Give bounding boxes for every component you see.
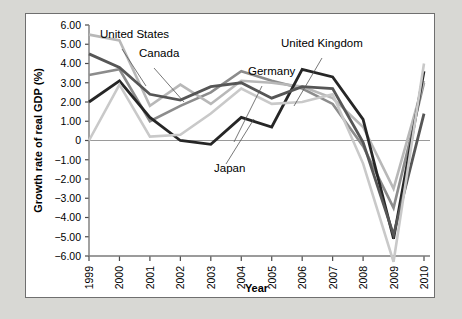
x-tick-label: 2000 [113, 266, 125, 290]
x-tick-label: 2003 [205, 266, 217, 290]
y-tick-label: 1.00 [61, 115, 82, 127]
gdp-growth-line-chart: 6.005.004.003.002.001.000−1.00−2.00−3.00… [26, 14, 436, 299]
x-tick-label: 2008 [357, 266, 369, 290]
y-tick-label: 5.00 [61, 38, 82, 50]
x-tick-label: 1999 [83, 266, 95, 290]
y-tick-label: −2.00 [54, 173, 81, 185]
series-label-canada: Canada [139, 47, 180, 59]
x-tick-label: 2001 [144, 266, 156, 290]
series-label-united-kingdom: United Kingdom [281, 37, 363, 49]
y-axis-title: Growth rate of real GDP (%) [32, 68, 44, 213]
x-tick-label: 2010 [418, 266, 430, 290]
y-tick-label: 0 [75, 134, 81, 146]
y-tick-label: 3.00 [61, 77, 82, 89]
y-tick-label: 2.00 [61, 96, 82, 108]
y-tick-label: −6.00 [54, 250, 81, 262]
y-tick-label: −1.00 [54, 154, 81, 166]
x-tick-label: 2006 [296, 266, 308, 290]
figure-panel: 6.005.004.003.002.001.000−1.00−2.00−3.00… [25, 13, 435, 298]
y-tick-label: −5.00 [54, 231, 81, 243]
y-tick-label: −3.00 [54, 192, 81, 204]
series-label-japan: Japan [214, 162, 245, 174]
x-axis-title: Year [245, 282, 269, 294]
x-tick-label: 2009 [388, 266, 400, 290]
series-label-united-states: United States [100, 28, 169, 40]
y-tick-label: 6.00 [61, 19, 82, 31]
x-tick-label: 2002 [174, 266, 186, 290]
leader-line-germany [234, 86, 262, 142]
y-axis-ticks: 6.005.004.003.002.001.000−1.00−2.00−3.00… [54, 19, 89, 262]
series-label-germany: Germany [248, 65, 296, 77]
series-line-germany [89, 69, 424, 238]
y-tick-label: −4.00 [54, 211, 81, 223]
y-tick-label: 4.00 [61, 57, 82, 69]
x-tick-label: 2007 [327, 266, 339, 290]
